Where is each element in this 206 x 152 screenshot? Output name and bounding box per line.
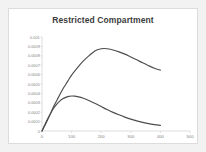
x-tick-label: 200	[98, 134, 106, 139]
y-tick-label: 0.0009	[28, 44, 40, 49]
y-tick-label: 0.0003	[28, 100, 40, 105]
y-tick-label: 0.0004	[28, 91, 41, 96]
x-tick-label: 0	[41, 134, 44, 139]
y-tick-label: 0.0002	[28, 110, 40, 115]
y-tick-label: 0.0006	[28, 72, 40, 77]
y-tick-label: 0.001	[30, 35, 40, 40]
data-series-group	[42, 48, 160, 131]
chart-card: Restricted Compartment 00.00010.00020.00…	[8, 8, 198, 144]
x-tick-label: 100	[68, 134, 76, 139]
y-tick-label: 0.0001	[28, 119, 40, 124]
y-tick-label: 0.0008	[28, 53, 40, 58]
x-axis-tick-labels: 0100200300400500	[41, 134, 194, 139]
y-tick-label: 0.0005	[28, 82, 40, 87]
x-tick-label: 500	[187, 134, 195, 139]
line-chart-plot: 00.00010.00020.00030.00040.00050.00060.0…	[9, 9, 199, 145]
series-line-upper-curve	[42, 48, 160, 131]
x-tick-label: 400	[157, 134, 165, 139]
y-tick-label: 0.0007	[28, 63, 40, 68]
series-line-lower-curve	[42, 96, 160, 131]
y-axis-tick-labels: 00.00010.00020.00030.00040.00050.00060.0…	[28, 35, 41, 134]
x-tick-label: 300	[127, 134, 135, 139]
